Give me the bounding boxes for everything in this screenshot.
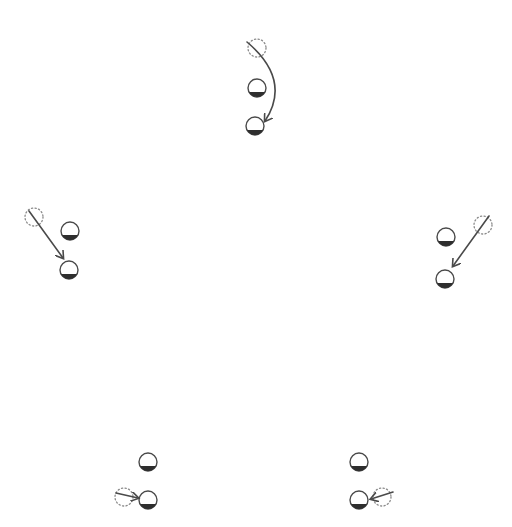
group-bottom-left: [115, 453, 157, 509]
group-right: [436, 216, 492, 288]
ball-shadow: [351, 504, 367, 509]
ball-shadow: [62, 235, 78, 240]
motion-arrow-icon: [116, 493, 138, 498]
ball-shadow: [351, 466, 367, 471]
group-top: [246, 39, 275, 135]
ball-shadow: [247, 130, 263, 135]
motion-diagram: [0, 0, 512, 527]
motion-arrow-icon: [453, 216, 489, 266]
ball-shadow: [61, 274, 77, 279]
ball-shadow: [438, 241, 454, 246]
group-bottom-right: [350, 453, 393, 509]
ball-shadow: [437, 283, 453, 288]
ghost-ball-icon: [248, 39, 266, 57]
group-left: [25, 208, 79, 279]
ball-shadow: [140, 504, 156, 509]
ball-shadow: [249, 92, 265, 97]
ball-shadow: [140, 466, 156, 471]
motion-arrow-icon: [29, 211, 63, 258]
